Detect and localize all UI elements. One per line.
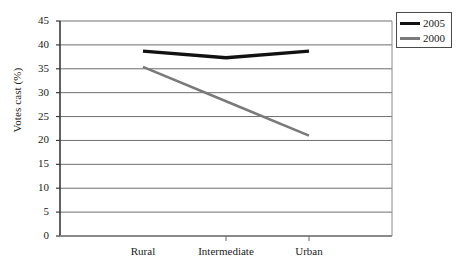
gridlines xyxy=(60,21,392,212)
legend-item-2005: 2005 xyxy=(400,16,445,30)
plot-area xyxy=(0,0,460,272)
legend-item-2000: 2000 xyxy=(400,31,445,45)
legend-swatch-2000-icon xyxy=(400,37,420,40)
series-line-2000 xyxy=(143,67,309,136)
legend-label-2005: 2005 xyxy=(423,18,445,29)
legend-label-2000: 2000 xyxy=(423,33,445,44)
data-series-lines xyxy=(143,51,309,136)
line-chart-figure: Votes cast (%) 454035302520151050 RuralI… xyxy=(0,0,460,272)
legend: 2005 2000 xyxy=(396,12,452,48)
series-line-2005 xyxy=(143,51,309,58)
legend-swatch-2005-icon xyxy=(400,22,420,25)
axis-lines xyxy=(60,21,392,236)
